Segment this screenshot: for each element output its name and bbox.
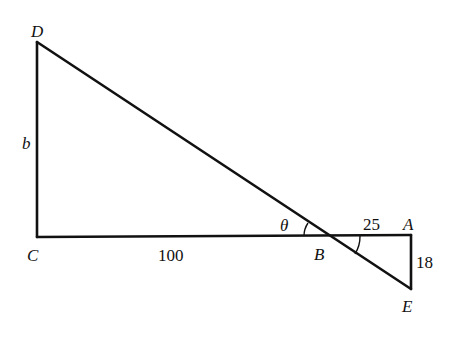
segment-ca xyxy=(37,235,411,237)
side-label-ba: 25 xyxy=(363,215,380,234)
side-label-dc: b xyxy=(22,134,31,153)
side-label-cb: 100 xyxy=(158,246,184,265)
vertex-label-c: C xyxy=(27,246,39,265)
vertex-label-b: B xyxy=(314,245,325,264)
triangle-diagram: D C B A E b 100 25 18 θ xyxy=(0,0,456,341)
vertex-label-d: D xyxy=(30,22,44,41)
segment-de xyxy=(37,42,411,289)
vertex-label-e: E xyxy=(401,297,413,316)
vertex-label-a: A xyxy=(402,215,414,234)
angle-theta-arc xyxy=(304,223,308,236)
angle-abe-arc xyxy=(355,236,360,254)
angle-label-theta: θ xyxy=(280,216,288,235)
side-label-ae: 18 xyxy=(416,253,433,272)
